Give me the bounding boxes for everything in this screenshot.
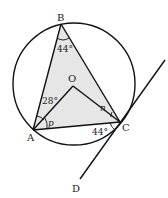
angle-label-oab: 28°: [42, 96, 58, 106]
angle-label-acd: 44°: [92, 127, 108, 137]
angle-label-ocb: n: [100, 103, 106, 113]
label-d: D: [72, 183, 80, 194]
label-o: O: [68, 73, 76, 84]
angle-label-b: 44°: [57, 44, 73, 54]
triangle-abc-fill: [33, 24, 120, 130]
angle-label-oac: p: [48, 118, 54, 128]
label-c: C: [122, 122, 130, 133]
angle-arc-acd: [110, 123, 115, 130]
label-b: B: [57, 12, 64, 23]
label-a: A: [26, 132, 35, 143]
geometry-diagram: B O A C D 44° 28° p n 44°: [0, 0, 168, 198]
